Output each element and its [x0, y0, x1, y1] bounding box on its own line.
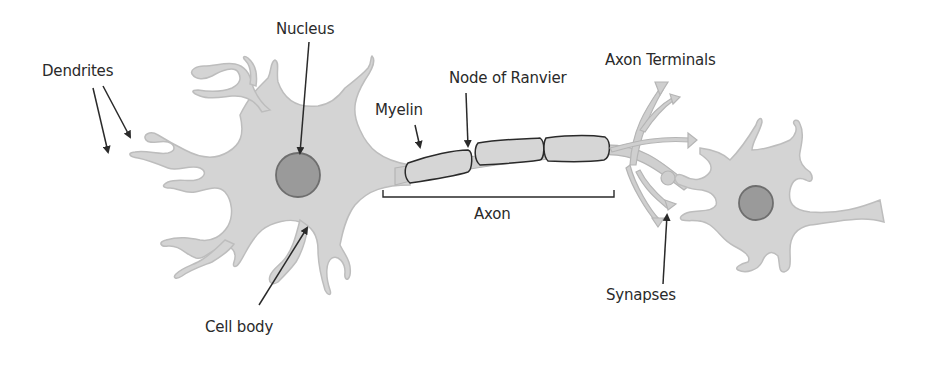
dendrites-label: Dendrites	[42, 62, 113, 80]
axon-terminals-label: Axon Terminals	[605, 51, 716, 69]
node-of-ranvier-arrow	[466, 93, 468, 146]
cell-body-label: Cell body	[205, 318, 273, 336]
axon-bracket	[383, 190, 614, 197]
axon-label: Axon	[474, 205, 511, 223]
dendrite-shape	[269, 220, 308, 284]
cell-body-arrow	[259, 228, 307, 305]
neuron-illustration	[0, 0, 926, 365]
myelin-sheath	[405, 136, 609, 183]
synapses-label: Synapses	[606, 286, 676, 304]
neuron-diagram: Dendrites Nucleus Myelin Node of Ranvier…	[0, 0, 926, 365]
nucleus-right	[739, 186, 773, 220]
dendrites-arrow-2	[103, 86, 130, 137]
myelin-label: Myelin	[375, 101, 423, 119]
synapses-arrow	[663, 215, 667, 284]
right-neuron	[675, 118, 884, 272]
left-neuron	[130, 56, 410, 295]
nucleus-left	[276, 153, 320, 197]
myelin-arrow	[415, 125, 420, 147]
node-of-ranvier-label: Node of Ranvier	[449, 69, 566, 87]
nucleus-label: Nucleus	[276, 20, 334, 38]
dendrites-arrow-1	[93, 88, 108, 152]
cell-body-shape	[130, 56, 410, 295]
